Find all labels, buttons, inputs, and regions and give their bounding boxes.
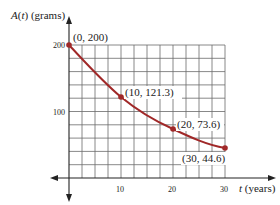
x-axis-arrow-left-icon [50,175,58,181]
annotation-2: (20, 73.6) [177,118,220,131]
x-tick-10: 10 [116,185,124,194]
x-tick-30: 30 [220,185,228,194]
y-tick-100: 100 [53,108,65,117]
y-tick-200: 200 [53,41,65,50]
data-point-0 [66,42,72,48]
y-axis-arrow-up-icon [66,16,72,24]
data-point-2 [170,126,176,132]
y-axis-label: A(t) (grams) [10,9,65,22]
data-point-1 [118,94,124,100]
y-axis-arrow-down-icon [66,194,72,202]
x-axis-arrow-right-icon [268,175,276,181]
x-axis-label: t (years) [239,182,276,195]
annotation-0: (0, 200) [73,31,108,44]
annotation-1: (10, 121.3) [125,86,174,99]
x-tick-20: 20 [168,185,176,194]
data-point-3 [222,145,228,151]
annotation-3: (30, 44.6) [182,152,225,165]
chart: 200 100 10 20 30 A(t) (grams) t (years) … [0,0,280,205]
